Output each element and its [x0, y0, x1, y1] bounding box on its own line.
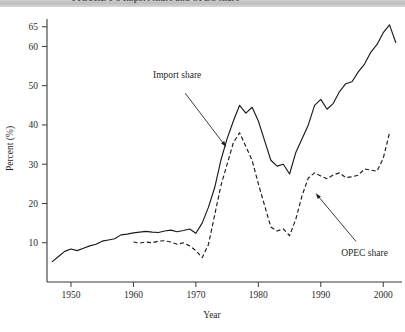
x-tick-label: 1950	[61, 290, 80, 300]
y-tick-label: 65	[29, 22, 39, 32]
y-tick-label: 60	[29, 42, 39, 52]
x-tick-label: 1980	[249, 290, 268, 300]
scanned-page-top-strip: FIGURE 1-3 Import share and OPEC share	[0, 0, 405, 7]
x-tick-label: 1990	[311, 290, 330, 300]
figure-page: FIGURE 1-3 Import share and OPEC share 1…	[0, 0, 405, 332]
y-tick-label: 50	[29, 81, 39, 91]
x-axis-title: Year	[203, 310, 221, 320]
opec-share-annotation-leader-line	[316, 194, 356, 242]
import-share-annotation-label: Import share	[153, 70, 201, 80]
import-share-annotation-leader-line	[185, 93, 225, 146]
line-chart-svg: 10203040506065195019601970198019902000 I…	[0, 7, 405, 332]
chart-annotations-layer: Import shareOPEC share	[153, 70, 388, 259]
x-tick-label: 1960	[124, 290, 143, 300]
chart-tick-labels: 10203040506065195019601970198019902000	[29, 22, 394, 300]
y-tick-label: 30	[29, 160, 39, 170]
series-line-opec-share	[133, 133, 389, 258]
chart-ticks	[42, 27, 383, 287]
chart-plot-area: 10203040506065195019601970198019902000 I…	[0, 7, 405, 332]
x-tick-label: 1970	[186, 290, 205, 300]
y-tick-label: 20	[29, 199, 39, 209]
y-tick-label: 10	[29, 238, 39, 248]
y-tick-label: 40	[29, 120, 39, 130]
opec-share-annotation-label: OPEC share	[341, 248, 388, 258]
y-axis-title: Percent (%)	[5, 126, 16, 171]
cut-off-figure-caption: FIGURE 1-3 Import share and OPEC share	[72, 0, 239, 3]
x-tick-label: 2000	[374, 290, 393, 300]
